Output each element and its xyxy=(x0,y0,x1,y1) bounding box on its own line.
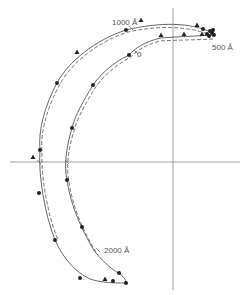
circle-marker xyxy=(78,276,82,280)
circle-marker xyxy=(201,27,205,31)
triangle-marker xyxy=(103,277,108,282)
triangle-marker xyxy=(31,155,36,160)
circle-marker xyxy=(207,34,211,38)
circle-marker xyxy=(124,28,128,32)
circle-marker xyxy=(91,83,95,87)
label-500-angstrom: 500 Å xyxy=(212,43,233,52)
circle-marker xyxy=(117,271,121,275)
tick-mark xyxy=(96,248,100,252)
circle-marker xyxy=(38,148,42,152)
triangle-marker xyxy=(195,23,200,28)
circle-marker xyxy=(55,81,59,85)
circle-marker xyxy=(124,281,128,285)
inner-curve-dashed xyxy=(68,39,213,255)
circle-marker xyxy=(37,191,41,195)
circle-marker xyxy=(53,238,57,242)
triangle-marker xyxy=(139,18,144,23)
circle-marker xyxy=(80,225,84,229)
circle-marker xyxy=(65,178,69,182)
circle-marker xyxy=(212,33,216,37)
circle-marker xyxy=(70,126,74,130)
triangle-marker xyxy=(182,32,187,37)
label-0-angstrom: 0 xyxy=(137,50,141,59)
circle-marker xyxy=(211,28,215,32)
triangle-marker xyxy=(75,50,80,55)
circle-marker xyxy=(127,53,131,57)
outer-curve-solid xyxy=(40,24,213,283)
locus-diagram: 1000 Å 0 500 Å 2000 Å xyxy=(0,0,247,295)
triangle-marker xyxy=(159,33,164,38)
label-2000-angstrom: 2000 Å xyxy=(104,246,129,255)
inner-curve-solid xyxy=(66,35,213,283)
triangle-markers xyxy=(31,18,205,282)
thickness-ticks xyxy=(37,26,138,252)
circle-marker xyxy=(111,279,115,283)
label-1000-angstrom: 1000 Å xyxy=(112,18,137,27)
